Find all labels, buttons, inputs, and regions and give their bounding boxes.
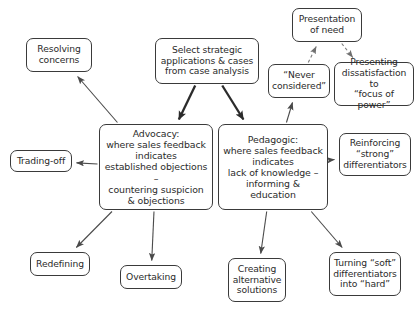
edge-pedagogic-turning bbox=[311, 212, 342, 248]
node-label-turning: Turning “soft” differentiators into “har… bbox=[330, 258, 400, 291]
node-presenting[interactable]: Presenting dissatisfaction to “focus of … bbox=[334, 62, 414, 106]
node-label-creating: Creating alternative solutions bbox=[230, 264, 285, 297]
node-creating[interactable]: Creating alternative solutions bbox=[228, 258, 286, 302]
node-label-advocacy: Advocacy: where sales feedback indicates… bbox=[100, 128, 212, 206]
edge-never-presentation bbox=[308, 47, 316, 63]
node-label-presentation: Presentation of need bbox=[296, 14, 359, 36]
node-never[interactable]: “Never considered” bbox=[268, 64, 330, 98]
node-label-select: Select strategic applications & cases fr… bbox=[158, 45, 256, 78]
edge-select-pedagogic bbox=[222, 86, 243, 120]
node-select[interactable]: Select strategic applications & cases fr… bbox=[155, 38, 259, 84]
node-label-never: “Never considered” bbox=[269, 70, 329, 92]
edge-advocacy-redefining bbox=[76, 212, 112, 248]
edge-pedagogic-creating bbox=[261, 212, 267, 254]
edge-advocacy-overtaking bbox=[152, 212, 154, 261]
edge-advocacy-resolving bbox=[78, 77, 118, 123]
node-advocacy[interactable]: Advocacy: where sales feedback indicates… bbox=[99, 124, 213, 210]
edge-pedagogic-reinforcing bbox=[330, 159, 335, 160]
node-label-redefining: Redefining bbox=[33, 259, 87, 270]
node-pedagogic[interactable]: Pedagogic: where sales feedback indicate… bbox=[218, 124, 328, 210]
node-turning[interactable]: Turning “soft” differentiators into “har… bbox=[329, 252, 401, 296]
node-reinforcing[interactable]: Reinforcing “strong” differentiators bbox=[339, 133, 411, 176]
node-label-pedagogic: Pedagogic: where sales feedback indicate… bbox=[219, 134, 327, 201]
node-label-reinforcing: Reinforcing “strong” differentiators bbox=[340, 138, 410, 171]
node-trading[interactable]: Trading-off bbox=[10, 150, 72, 172]
node-presentation[interactable]: Presentation of need bbox=[292, 8, 362, 42]
node-label-presenting: Presenting dissatisfaction to “focus of … bbox=[335, 57, 413, 111]
node-resolving[interactable]: Resolving concerns bbox=[26, 38, 92, 72]
edge-select-advocacy bbox=[179, 86, 195, 120]
edge-advocacy-trading bbox=[77, 163, 98, 164]
node-redefining[interactable]: Redefining bbox=[30, 252, 90, 276]
node-label-overtaking: Overtaking bbox=[123, 272, 179, 283]
node-label-trading: Trading-off bbox=[14, 156, 68, 167]
edge-pedagogic-never bbox=[286, 103, 292, 123]
node-overtaking[interactable]: Overtaking bbox=[120, 265, 182, 289]
diagram-canvas: Resolving concernsSelect strategic appli… bbox=[0, 0, 419, 316]
node-label-resolving: Resolving concerns bbox=[34, 44, 83, 66]
